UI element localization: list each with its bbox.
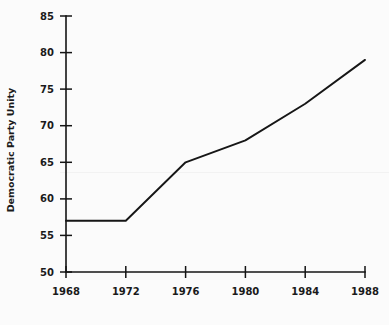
y-tick-label: 65 (40, 157, 54, 168)
x-tick-label: 1988 (351, 286, 379, 297)
chart-screenshot: 85 80 75 70 65 60 55 50 1968 1972 1976 1… (0, 0, 389, 325)
x-tick-label: 1980 (231, 286, 259, 297)
line-chart: 85 80 75 70 65 60 55 50 1968 1972 1976 1… (0, 0, 389, 325)
y-tick-label: 85 (40, 11, 54, 22)
y-tick-label: 75 (40, 84, 54, 95)
y-tick-labels: 85 80 75 70 65 60 55 50 (40, 11, 54, 278)
y-tick-label: 80 (40, 47, 54, 58)
y-tick-label: 50 (40, 267, 54, 278)
x-tick-label: 1984 (291, 286, 319, 297)
y-tick-label: 70 (40, 120, 54, 131)
x-tick-labels: 1968 1972 1976 1980 1984 1988 (52, 286, 379, 297)
data-series-line (66, 60, 365, 221)
x-tick-label: 1968 (52, 286, 80, 297)
x-tick-label: 1972 (112, 286, 140, 297)
y-tick-label: 55 (40, 230, 54, 241)
y-axis-title: Democratic Party Unity (5, 87, 16, 212)
y-tick-label: 60 (40, 193, 54, 204)
x-tick-label: 1976 (172, 286, 200, 297)
